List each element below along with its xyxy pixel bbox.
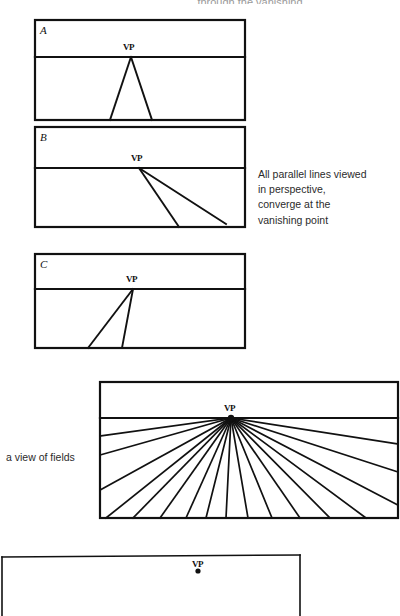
fields-caption: a view of fields [6, 450, 102, 465]
panel-label-b: B [40, 131, 47, 143]
vanishing-point-label-c: VP [126, 274, 137, 284]
perspective-note-line-1: All parallel lines viewed [258, 167, 398, 182]
vanishing-point-label-bottom: VP [192, 559, 203, 569]
vanishing-point-label-fields: VP [224, 403, 235, 413]
perspective-note: All parallel lines viewed in perspective… [258, 167, 398, 228]
vanishing-point-label-a: VP [123, 42, 134, 52]
panel-label-a: A [40, 24, 47, 36]
perspective-note-line-3: converge at the [258, 197, 398, 212]
perspective-note-line-4: vanishing point [258, 213, 398, 228]
vanishing-point-label-b: VP [131, 153, 142, 163]
perspective-diagram [0, 0, 400, 616]
panel-label-c: C [40, 258, 47, 270]
perspective-note-line-2: in perspective, [258, 182, 398, 197]
worksheet-sheet: through the vanishing [0, 0, 400, 616]
